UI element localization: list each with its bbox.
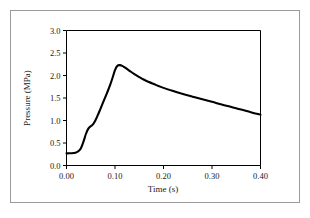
x-tick-label: 0.10 xyxy=(108,171,123,181)
y-tick-label: 3.0 xyxy=(50,26,61,36)
chart-svg: 0.000.100.200.300.40 0.00.51.01.52.02.53… xyxy=(0,0,310,218)
y-tick-label: 2.5 xyxy=(50,48,61,58)
plot-box xyxy=(67,31,261,166)
y-tick-label: 2.0 xyxy=(50,71,61,81)
figure-canvas: 0.000.100.200.300.40 0.00.51.01.52.02.53… xyxy=(0,0,310,218)
x-axis-tick-labels: 0.000.100.200.300.40 xyxy=(59,171,268,181)
y-tick-label: 1.5 xyxy=(50,93,61,103)
data-curve xyxy=(67,65,261,153)
plot-frame xyxy=(67,31,261,166)
y-axis-tick-labels: 0.00.51.01.52.02.53.0 xyxy=(50,26,61,171)
x-tick-label: 0.40 xyxy=(253,171,268,181)
x-tick-label: 0.00 xyxy=(59,171,74,181)
y-tick-label: 0.5 xyxy=(50,138,61,148)
x-tick-label: 0.30 xyxy=(205,171,220,181)
y-axis-title: Pressure (MPa) xyxy=(22,70,32,126)
y-tick-label: 1.0 xyxy=(50,116,61,126)
y-tick-label: 0.0 xyxy=(50,161,61,171)
x-tick-label: 0.20 xyxy=(156,171,171,181)
x-axis-ticks xyxy=(67,166,261,170)
data-series-layer xyxy=(67,65,261,153)
pressure-time-chart: 0.000.100.200.300.40 0.00.51.01.52.02.53… xyxy=(0,0,310,218)
y-axis-ticks xyxy=(63,31,67,166)
x-axis-title: Time (s) xyxy=(148,184,178,194)
